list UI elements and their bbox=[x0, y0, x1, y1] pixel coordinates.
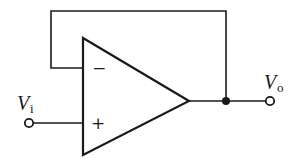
inverting-input-sign: − bbox=[92, 58, 106, 78]
output-label: V o bbox=[264, 71, 284, 95]
input-terminal bbox=[25, 119, 33, 127]
input-label: V i bbox=[17, 92, 34, 116]
svg-text:o: o bbox=[277, 80, 284, 95]
junction-node bbox=[222, 97, 230, 105]
circuit-diagram: − + V i V o bbox=[0, 0, 308, 164]
noninverting-input-sign: + bbox=[91, 113, 105, 133]
svg-text:i: i bbox=[30, 101, 34, 116]
opamp-triangle bbox=[83, 38, 189, 155]
output-terminal bbox=[266, 97, 274, 105]
